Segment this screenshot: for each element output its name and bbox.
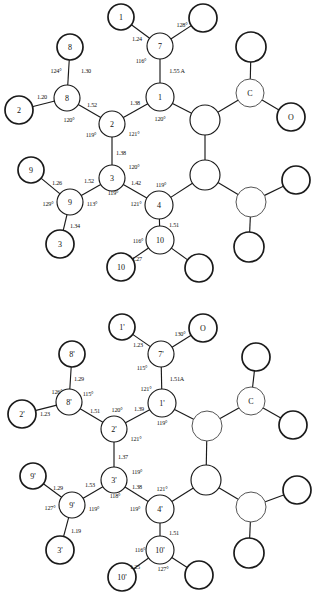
atom-7-prime[interactable]: 7': [148, 341, 174, 367]
bond-angle-label: 119°: [89, 505, 100, 512]
atom-r2[interactable]: [191, 465, 221, 495]
atom-O[interactable]: O: [189, 314, 217, 342]
atom-label: 3: [110, 174, 114, 183]
bond-angle-label: 127°: [45, 504, 57, 511]
atom-7[interactable]: 7: [147, 33, 173, 59]
atom-label: 9: [29, 166, 33, 175]
atom-3[interactable]: 3: [46, 230, 74, 258]
molecule-diagram-top: 1234789101829310CO128°1.24116°1.55 A1.30…: [0, 0, 328, 298]
bond-length-label: 1.34: [70, 222, 80, 229]
atom-label: 1: [119, 13, 123, 22]
molecule-a-svg: 1234789101829310CO128°1.24116°1.55 A1.30…: [0, 0, 328, 298]
bond-length-label: 1.53: [85, 481, 95, 488]
bond-length-label: 1.23: [40, 410, 50, 417]
bond-angle-label: 124°: [51, 67, 63, 74]
atom-9-prime[interactable]: 9': [20, 463, 46, 489]
atom-rCtop[interactable]: [242, 343, 270, 371]
atom-rCtop[interactable]: [236, 32, 266, 62]
atom-3[interactable]: 3: [99, 165, 125, 191]
atom-r3a[interactable]: [283, 476, 311, 504]
atom-rCright[interactable]: [279, 411, 307, 439]
bond-angle-label: 128°: [177, 21, 189, 28]
atom-layer: 1'2'3'4'7'8'9'10'1'O8'2'9'3'10'C: [8, 314, 311, 591]
bond-angle-label: 121°: [131, 435, 143, 442]
atom-2-prime[interactable]: 2': [8, 400, 36, 428]
atom-4[interactable]: 4: [145, 191, 173, 219]
atom-4-prime[interactable]: 4': [146, 495, 174, 523]
bond-n10-t10b: [171, 248, 188, 260]
atom-8[interactable]: 8: [57, 34, 83, 60]
atom-t7b[interactable]: [189, 4, 217, 32]
bond-angle-label: 130°: [175, 330, 187, 337]
bond-n3-n4: [123, 184, 147, 198]
atom-9[interactable]: 9: [57, 189, 83, 215]
atom-1[interactable]: 1: [108, 4, 134, 30]
atom-O[interactable]: O: [277, 103, 305, 131]
atom-label: 9': [30, 472, 36, 481]
bond-length-label: 1.39: [134, 405, 144, 412]
bond-angle-label: 116°: [136, 57, 147, 64]
bond-length-label: 1.23: [133, 341, 143, 348]
atom-1-prime[interactable]: 1': [148, 389, 176, 417]
atom-r2[interactable]: [190, 160, 220, 190]
atom-C[interactable]: C: [236, 79, 264, 107]
atom-circle: [234, 538, 264, 568]
atom-2[interactable]: 2: [99, 111, 125, 137]
atom-9[interactable]: 9: [18, 157, 44, 183]
atom-r3b[interactable]: [234, 232, 264, 262]
atom-8[interactable]: 8: [54, 85, 80, 111]
bond-angle-label: 121°: [131, 200, 143, 207]
bond-rC-rO: [262, 100, 280, 110]
atom-10[interactable]: 10: [146, 226, 174, 254]
atom-label: 2: [17, 106, 21, 115]
atom-label: 10: [117, 263, 125, 272]
atom-2[interactable]: 2: [5, 96, 33, 124]
atom-C[interactable]: C: [237, 387, 265, 415]
atom-t10b[interactable]: [185, 561, 213, 589]
atom-circle: [190, 160, 220, 190]
bond-angle-label: 113°: [87, 200, 98, 207]
atom-label: 8': [66, 398, 72, 407]
bond-length-label: 1.27: [132, 255, 142, 262]
atom-10[interactable]: 10: [107, 253, 135, 281]
bond-layer: [35, 334, 284, 569]
atom-label: 9': [69, 501, 75, 510]
atom-1-prime[interactable]: 1': [109, 314, 135, 340]
atom-r3[interactable]: [236, 187, 266, 217]
bond-angle-label: 121°: [157, 485, 169, 492]
atom-label: 10: [156, 236, 164, 245]
atom-r1[interactable]: [192, 411, 222, 441]
bond-angle-label: 129°: [43, 200, 55, 207]
atom-3-prime[interactable]: 3': [46, 536, 74, 564]
atom-label: 1': [119, 323, 125, 332]
bond-tO-n7: [172, 335, 192, 347]
bond-angle-label: 119°: [86, 131, 97, 138]
atom-1[interactable]: 1: [146, 83, 174, 111]
atom-circle: [282, 166, 310, 194]
atom-r3a[interactable]: [282, 166, 310, 194]
atom-r3b[interactable]: [234, 538, 264, 568]
atom-label: 2': [111, 425, 117, 434]
bond-length-label: 1.51A: [170, 375, 185, 382]
atom-label: 3': [111, 476, 117, 485]
bond-r3-r3b: [250, 216, 251, 232]
atom-label: O: [288, 113, 294, 122]
bond-length-label: 1.51: [169, 529, 179, 536]
bond-r2-r3: [218, 487, 238, 499]
atom-t10b[interactable]: [185, 254, 213, 282]
atom-label: O: [200, 324, 206, 333]
bond-angle-label: 120°: [155, 115, 167, 122]
atom-8-prime[interactable]: 8': [59, 341, 85, 367]
molecule-b-svg: 1'2'3'4'7'8'9'10'1'O8'2'9'3'10'C130°1.23…: [0, 298, 328, 597]
atom-3-prime[interactable]: 3': [101, 467, 127, 493]
atom-circle: [185, 561, 213, 589]
bond-length-label: 1.29: [53, 484, 63, 491]
bond-n8-t8: [70, 366, 71, 389]
atom-label: 9: [68, 198, 72, 207]
atom-9-prime[interactable]: 9': [59, 492, 85, 518]
bond-n1-n2: [123, 104, 148, 118]
atom-10-prime[interactable]: 10': [146, 536, 174, 564]
atom-r3[interactable]: [236, 492, 266, 522]
atom-r1[interactable]: [190, 105, 220, 135]
atom-2-prime[interactable]: 2': [101, 416, 127, 442]
